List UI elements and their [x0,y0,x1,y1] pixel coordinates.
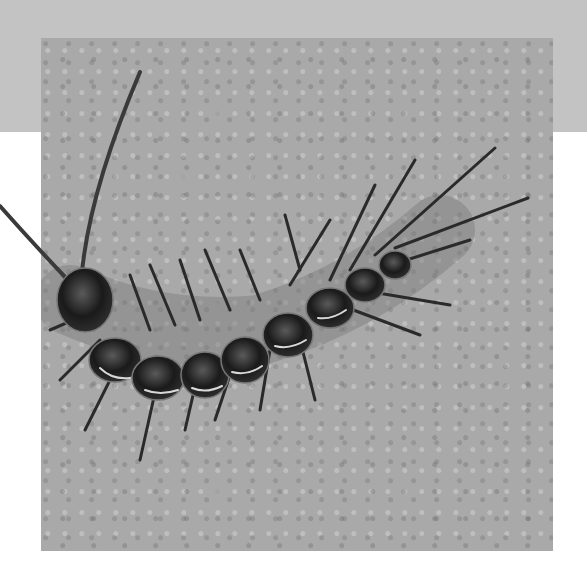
photo-surface [41,38,553,551]
